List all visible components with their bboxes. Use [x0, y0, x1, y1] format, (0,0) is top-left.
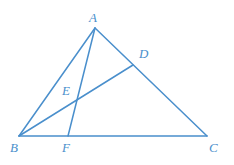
vertex-label-a: A: [88, 10, 97, 25]
vertex-label-e: E: [61, 83, 70, 98]
vertex-label-d: D: [138, 46, 149, 61]
geometry-figure: A B C D E F: [0, 0, 234, 165]
vertex-label-c: C: [209, 140, 218, 155]
triangle-diagram-canvas: A B C D E F: [0, 0, 234, 165]
vertex-label-f: F: [61, 140, 71, 155]
vertex-label-b: B: [10, 140, 18, 155]
figure-background: [0, 0, 234, 165]
